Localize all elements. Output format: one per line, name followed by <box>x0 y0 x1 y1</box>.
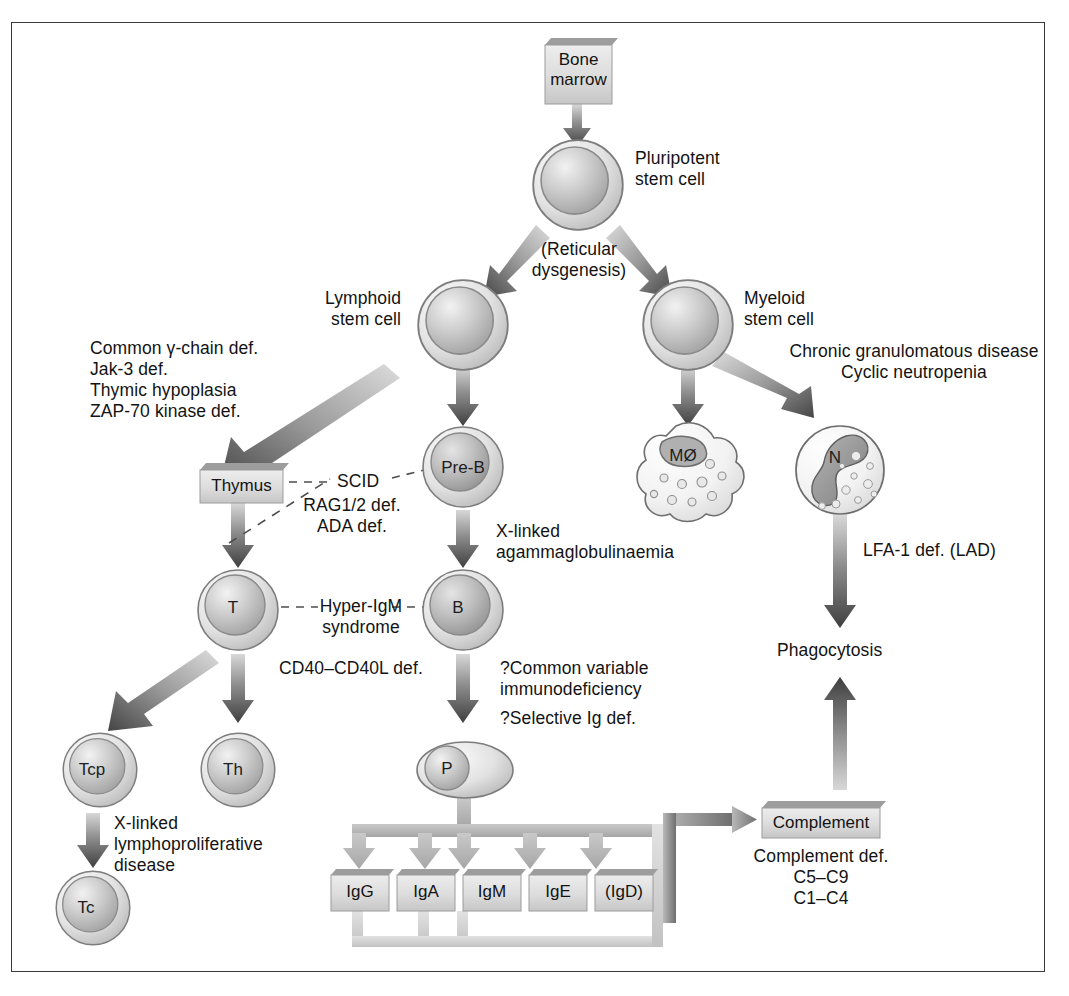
arrow-t-to-tcp <box>108 650 219 731</box>
arrow-complement-to-phagocytosis <box>824 677 856 790</box>
diagram-canvas: Bone marrow Thymus Complement IgG IgA Ig… <box>0 0 1069 996</box>
cell-pre-b <box>423 427 503 507</box>
arrow-neutrophil-to-phagocytosis <box>824 515 856 628</box>
arrow-lymphoid-to-preb <box>447 366 479 426</box>
label-x-linked-lymphoproliferative-disease: X-linked lymphoproliferative disease <box>114 813 263 876</box>
label-lymphoid-stem-cell: Lymphoid stem cell <box>236 288 401 330</box>
cell-macrophage <box>637 423 744 522</box>
cell-tcp <box>63 733 137 807</box>
label-myeloid-stem-cell: Myeloid stem cell <box>744 288 814 330</box>
label-pluripotent-stem-cell: Pluripotent stem cell <box>635 148 720 190</box>
box-complement <box>762 801 886 838</box>
box-igm <box>463 869 526 911</box>
label-phagocytosis: Phagocytosis <box>777 640 882 661</box>
cell-neutrophil <box>796 426 884 514</box>
label-x-linked-agammaglobulinaemia: X-linked agammaglobulinaemia <box>496 521 674 563</box>
cell-myeloid-stem-cell <box>643 280 733 370</box>
label-scid-defect-group: Common γ-chain def. Jak-3 def. Thymic hy… <box>90 338 258 422</box>
cell-lymphoid-stem-cell <box>418 280 508 370</box>
arrow-myeloid-to-macrophage <box>672 366 704 426</box>
box-ige <box>529 869 592 911</box>
box-bone-marrow <box>545 38 618 104</box>
box-igd <box>595 869 658 911</box>
cell-pluripotent-stem-cell <box>533 140 623 230</box>
cell-plasma <box>417 742 513 798</box>
label-scid: SCID <box>337 471 379 492</box>
arrow-b-to-p <box>447 654 479 723</box>
cell-b <box>423 570 503 650</box>
cell-t <box>198 570 278 650</box>
box-igg <box>331 869 394 911</box>
label-reticular-dysgenesis: (Reticular dysgenesis) <box>503 239 655 281</box>
label-selective-ig-defect: ?Selective Ig def. <box>500 708 636 729</box>
label-scid-sub-defects: RAG1/2 def. ADA def. <box>272 495 432 537</box>
box-iga <box>397 869 460 911</box>
label-lfa1-defect: LFA-1 def. (LAD) <box>863 540 996 561</box>
arrow-thymus-to-t <box>222 503 254 568</box>
cell-th <box>201 733 275 807</box>
label-common-variable-immunodeficiency: ?Common variable immunodeficiency <box>500 658 648 700</box>
arrow-t-to-th <box>222 654 254 723</box>
arrow-tcp-to-tc <box>77 813 109 868</box>
bus-p-to-immunoglobulins <box>343 797 657 869</box>
label-cd40-cd40l-defect: CD40–CD40L def. <box>279 658 423 679</box>
label-hyper-igm-syndrome: Hyper-IgM syndrome <box>296 596 426 638</box>
arrow-preb-to-b <box>447 510 479 568</box>
label-chronic-granulomatous-disease: Chronic granulomatous disease Cyclic neu… <box>774 341 1054 383</box>
cell-tc <box>56 871 130 945</box>
label-complement-defect: Complement def. C5–C9 C1–C4 <box>741 846 901 909</box>
